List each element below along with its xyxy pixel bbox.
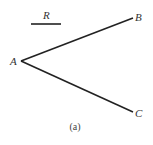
ray-ac	[21, 61, 133, 112]
angle-diagram: R A B C (a)	[0, 0, 153, 145]
segment-r-label: R	[42, 9, 50, 21]
point-c-label: C	[135, 107, 143, 119]
figure-caption: (a)	[69, 121, 80, 133]
point-b-label: B	[135, 11, 142, 23]
point-a-label: A	[9, 55, 17, 67]
